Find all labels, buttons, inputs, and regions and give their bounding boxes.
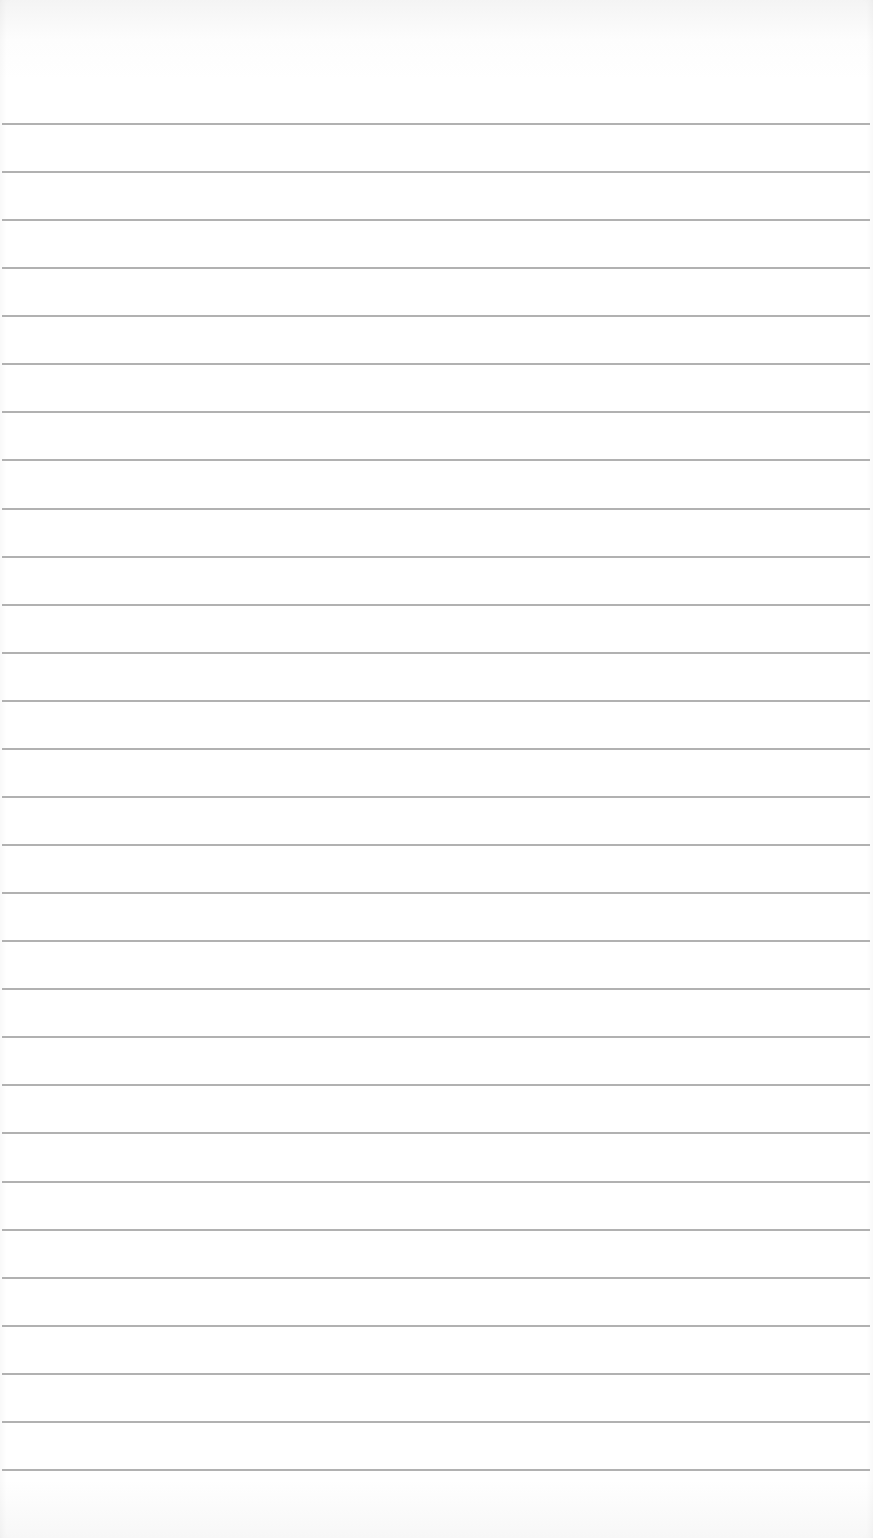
ruled-line <box>2 940 870 942</box>
ruled-line <box>2 604 870 606</box>
ruled-line <box>2 219 870 221</box>
ruled-line <box>2 1084 870 1086</box>
ruled-line <box>2 1373 870 1375</box>
ruled-line <box>2 748 870 750</box>
ruled-line <box>2 459 870 461</box>
ruled-line <box>2 1325 870 1327</box>
ruled-line <box>2 1132 870 1134</box>
ruled-line <box>2 363 870 365</box>
ruled-line <box>2 796 870 798</box>
ruled-line <box>2 267 870 269</box>
ruled-line <box>2 988 870 990</box>
ruled-line <box>2 1229 870 1231</box>
lined-paper-page <box>0 0 873 1538</box>
ruled-line <box>2 508 870 510</box>
ruled-line <box>2 315 870 317</box>
ruled-line <box>2 1036 870 1038</box>
ruled-line <box>2 652 870 654</box>
ruled-line <box>2 556 870 558</box>
ruled-line <box>2 171 870 173</box>
ruled-line <box>2 1421 870 1423</box>
ruled-line <box>2 844 870 846</box>
ruled-line <box>2 892 870 894</box>
ruled-line <box>2 123 870 125</box>
ruled-line <box>2 411 870 413</box>
ruled-line <box>2 700 870 702</box>
ruled-line <box>2 1469 870 1471</box>
ruled-line <box>2 1181 870 1183</box>
ruled-line <box>2 1277 870 1279</box>
